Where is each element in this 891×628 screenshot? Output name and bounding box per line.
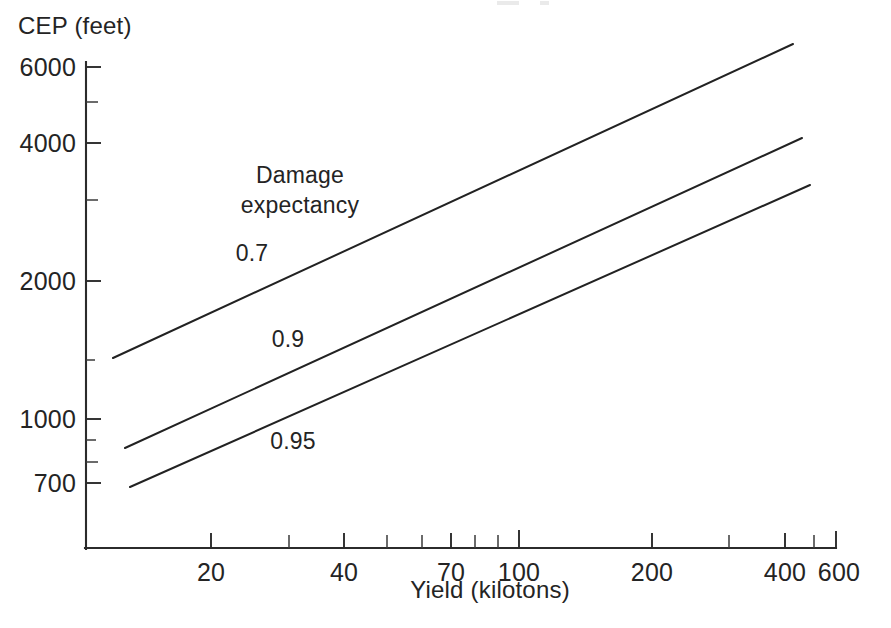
scan-artifact-speck-1: [497, 1, 519, 5]
annotation-damage-expectancy-line1: Damage: [200, 160, 400, 190]
x-tick-label-20: 20: [171, 558, 251, 587]
y-tick-label-700: 700: [0, 469, 76, 498]
y-axis-title: CEP (feet): [18, 12, 132, 40]
scan-artifact-speck-2: [540, 1, 549, 5]
series-label-0-7: 0.7: [222, 240, 282, 267]
y-axis-major-ticks: [86, 67, 101, 483]
y-tick-label-6000: 6000: [0, 53, 76, 82]
x-axis-title: Yield (kilotons): [360, 576, 620, 604]
x-tick-label-200: 200: [612, 558, 692, 587]
chart-figure: CEP (feet) 6000 4000 2000 1000 700 20 40…: [0, 0, 891, 628]
axis-lines: [85, 62, 836, 549]
chart-plot-area: [0, 0, 891, 628]
y-axis-minor-ticks: [86, 102, 98, 462]
data-series-group: [113, 44, 810, 487]
series-label-0-9: 0.9: [258, 326, 318, 353]
x-axis-minor-ticks: [289, 535, 814, 548]
y-tick-label-1000: 1000: [0, 405, 76, 434]
y-tick-label-2000: 2000: [0, 267, 76, 296]
x-tick-label-600: 600: [799, 558, 879, 587]
y-tick-label-4000: 4000: [0, 129, 76, 158]
x-axis-major-ticks: [211, 530, 836, 548]
series-line-0-95: [130, 185, 810, 487]
series-label-0-95: 0.95: [258, 428, 328, 455]
annotation-damage-expectancy-line2: expectancy: [200, 190, 400, 220]
